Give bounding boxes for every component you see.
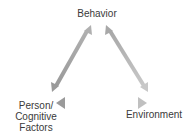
arrow-person-environment — [56, 97, 147, 109]
arrow-behavior-person — [51, 25, 92, 92]
node-behavior: Behavior — [74, 8, 120, 19]
node-person-cognitive-factors: Person/ Cognitive Factors — [12, 100, 60, 133]
node-environment: Environment — [124, 109, 184, 120]
arrow-behavior-environment — [105, 25, 148, 92]
